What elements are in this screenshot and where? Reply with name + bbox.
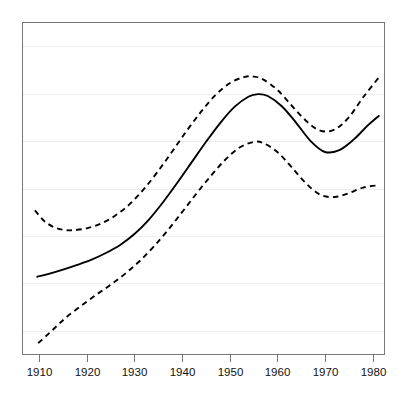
x-axis-tick-label: 1970 [313,366,339,378]
x-axis-tick-label: 1940 [170,366,196,378]
x-axis-tick-label: 1960 [265,366,291,378]
x-axis-tick-label: 1920 [75,366,101,378]
series-line-lower-confidence-band [38,142,379,344]
plot-frame [23,23,385,355]
line-chart: 19101920193019401950196019701980 [0,0,408,400]
series-line-fit [37,94,379,277]
x-axis-tick-label: 1930 [122,366,148,378]
x-axis-tick-label: 1980 [361,366,387,378]
chart-container: 19101920193019401950196019701980 [0,0,408,400]
x-axis-tick-label: 1910 [27,366,53,378]
data-series-group [35,76,379,343]
x-axis-tick-label: 1950 [218,366,244,378]
x-axis-ticks [40,355,374,362]
gridlines [23,47,385,332]
x-axis-tick-labels: 19101920193019401950196019701980 [27,366,387,378]
